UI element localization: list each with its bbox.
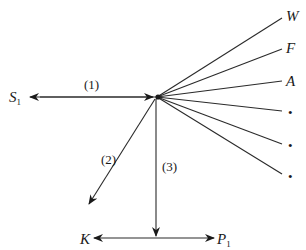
label-p1: P1 <box>216 231 231 249</box>
fan-line-a <box>157 81 282 97</box>
diagram-canvas: S1 (1) (2) (3) K P1 W F A • • • <box>0 0 306 250</box>
label-path-1: (1) <box>84 77 99 92</box>
edge-path-2 <box>89 99 155 204</box>
label-k: K <box>79 231 91 247</box>
fan-lines <box>157 18 282 174</box>
label-w: W <box>286 8 300 24</box>
label-path-3: (3) <box>162 159 177 174</box>
label-dot-1: • <box>288 105 293 120</box>
fan-line-f <box>157 49 282 97</box>
label-s1: S1 <box>9 89 21 107</box>
fan-line-w <box>157 18 282 97</box>
label-f: F <box>285 40 296 56</box>
label-path-2: (2) <box>101 152 116 167</box>
network-diagram: S1 (1) (2) (3) K P1 W F A • • • <box>0 0 306 250</box>
center-node <box>155 94 160 99</box>
label-dot-3: • <box>288 169 293 184</box>
label-dot-2: • <box>288 138 293 153</box>
label-a: A <box>285 73 296 89</box>
